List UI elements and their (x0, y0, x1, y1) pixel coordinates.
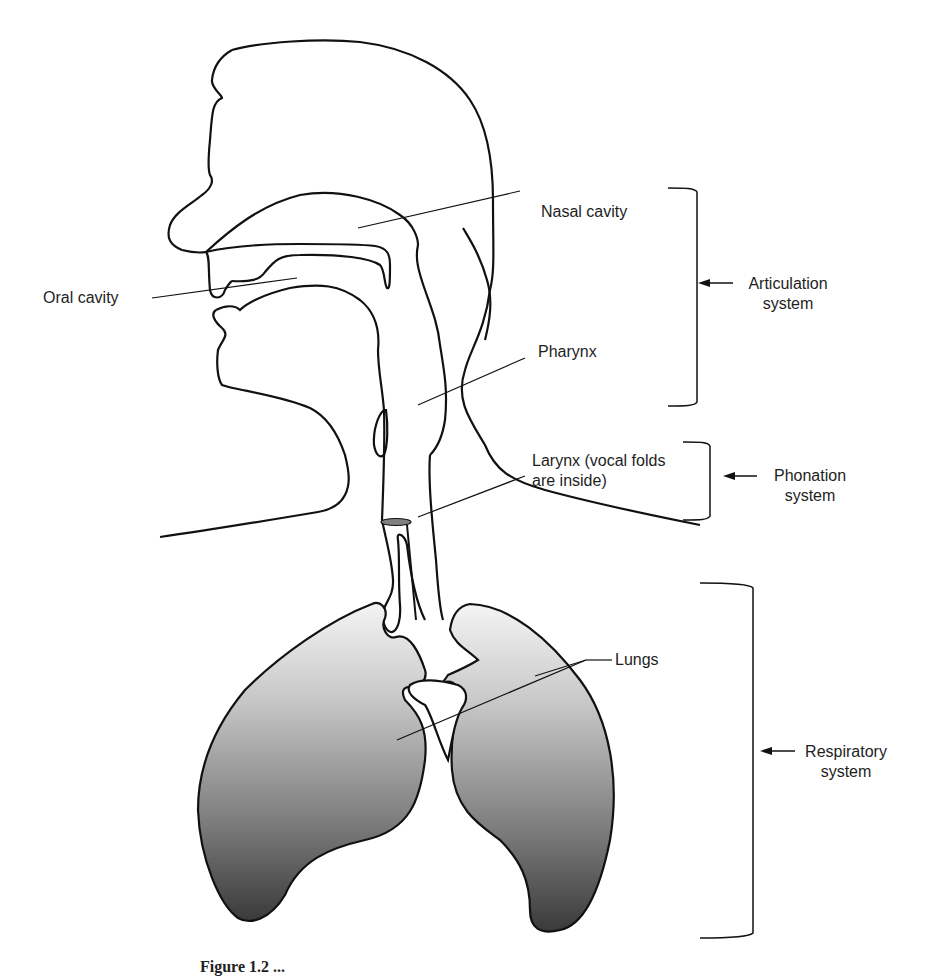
figure-caption-cropped: Figure 1.2 ... (200, 958, 285, 976)
respiratory-system-label-line2: system (796, 762, 896, 782)
larynx-label-line1: Larynx (vocal folds (532, 451, 665, 471)
articulation-system-label-line1: Articulation (733, 274, 843, 294)
articulation-system-label-line2: system (733, 294, 843, 314)
neck-back-line (463, 228, 490, 340)
phonation-system-label-line1: Phonation (760, 466, 860, 486)
palate-outline (206, 244, 390, 288)
pharynx-leader (418, 358, 525, 405)
trachea-outline (382, 455, 443, 632)
tongue-outline (216, 286, 384, 520)
pharynx-label: Pharynx (538, 342, 597, 362)
lungs-label: Lungs (615, 650, 659, 670)
trachea-inner-line (407, 525, 416, 620)
vocal-folds (381, 519, 411, 526)
oral-cavity-label: Oral cavity (43, 288, 119, 308)
phonation-arrow-icon (723, 472, 757, 480)
articulation-arrow-icon (698, 279, 733, 287)
respiratory-bracket (700, 583, 753, 938)
nasal-cavity-outline (206, 193, 446, 455)
oral-cavity-leader (152, 278, 297, 298)
larynx-leader (418, 476, 525, 517)
larynx-label-line2: are inside) (532, 471, 607, 491)
left-lung (198, 603, 426, 921)
right-lung (441, 604, 614, 932)
phonation-system-label-line2: system (760, 486, 860, 506)
respiratory-arrow-icon (760, 747, 795, 755)
nasal-cavity-label: Nasal cavity (541, 202, 627, 222)
articulation-bracket (668, 188, 697, 406)
phonation-bracket (683, 442, 710, 520)
respiratory-system-label-line1: Respiratory (796, 742, 896, 762)
nasal-cavity-leader (358, 191, 520, 228)
